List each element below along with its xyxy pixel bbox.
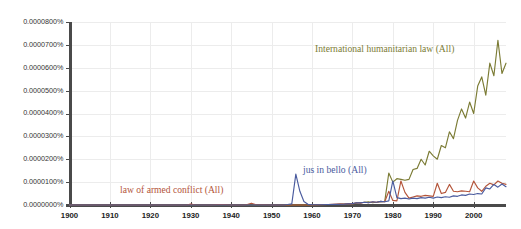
series-line (70, 40, 507, 205)
y-axis-tick-labels: 0.0000000%0.0000100%0.0000200%0.0000300%… (23, 17, 64, 209)
x-axis-tick-label: 1950 (263, 211, 281, 220)
series-annotation-label: International humanitarian law (All) (315, 43, 454, 55)
x-axis-tick-label: 1970 (344, 211, 362, 220)
y-axis-tick-label: 0.0000600% (23, 63, 64, 72)
y-axis-tick-label: 0.0000800% (23, 17, 64, 26)
x-axis-tick-label: 1960 (303, 211, 321, 220)
x-axis-tick-label: 1930 (182, 211, 200, 220)
x-axis-tick-label: 1910 (101, 211, 119, 220)
series-annotations: International humanitarian law (All)jus … (120, 43, 454, 196)
y-axis-tick-label: 0.0000200% (23, 154, 64, 163)
y-axis-tick-label: 0.0000400% (23, 108, 64, 117)
x-axis-tick-labels: 1900191019201930194019501960197019801990… (61, 211, 483, 220)
ngram-plot-svg: 0.0000000%0.0000100%0.0000200%0.0000300%… (0, 0, 521, 229)
y-axis-tick-label: 0.0000300% (23, 131, 64, 140)
ngram-chart: 0.0000000%0.0000100%0.0000200%0.0000300%… (0, 0, 521, 229)
series-annotation-label: law of armed conflict (All) (120, 184, 223, 196)
data-series (70, 40, 507, 205)
x-axis-tick-label: 1920 (142, 211, 160, 220)
y-axis-tick-label: 0.0000100% (23, 177, 64, 186)
y-axis-tick-label: 0.0000500% (23, 86, 64, 95)
y-axis-tick-label: 0.0000000% (23, 200, 64, 209)
series-annotation-label: jus in bello (All) (302, 164, 367, 176)
x-axis-tick-label: 2000 (465, 211, 483, 220)
y-axis-tick-label: 0.0000700% (23, 40, 64, 49)
x-axis-tick-label: 1900 (61, 211, 79, 220)
x-axis-tick-label: 1980 (384, 211, 402, 220)
x-axis-tick-label: 1990 (425, 211, 443, 220)
x-axis-tick-label: 1940 (222, 211, 240, 220)
